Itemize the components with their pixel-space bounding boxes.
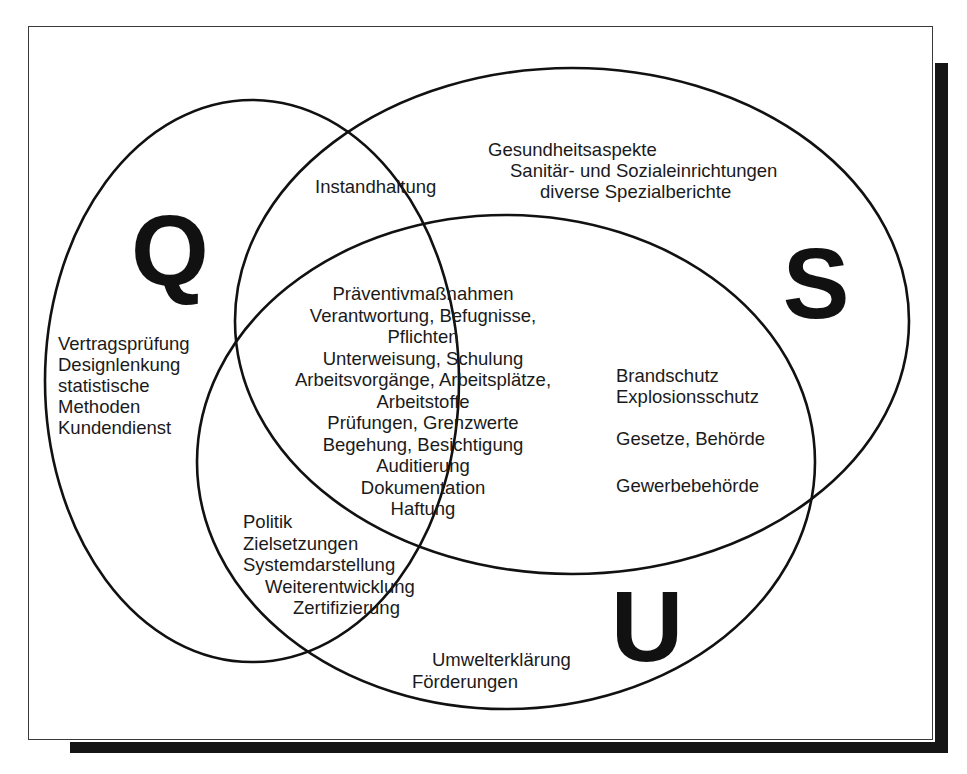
region-label-line: Umwelterklärung	[432, 649, 571, 670]
region-label-line: Verantwortung, Befugnisse,	[310, 305, 536, 326]
region-label-line: Auditierung	[376, 455, 470, 476]
region-label-line: Sanitär- und Sozialeinrichtungen	[510, 160, 777, 181]
region-label-line: Gesundheitsaspekte	[488, 139, 657, 160]
region-label-line: Designlenkung	[58, 354, 180, 375]
region-label-line: Brandschutz	[616, 365, 719, 386]
region-s-u-labels: BrandschutzExplosionsschutzGesetze, Behö…	[616, 365, 765, 496]
region-label-line: diverse Spezialberichte	[540, 181, 731, 202]
region-label-line: Prüfungen, Grenzwerte	[327, 412, 518, 433]
region-u-only-labels: UmwelterklärungFörderungen	[412, 649, 571, 692]
region-label-line: Gewerbebehörde	[616, 475, 759, 496]
region-q-s-labels: Instandhaltung	[315, 176, 436, 197]
diagram-stage: Q S U VertragsprüfungDesignlenkungstatis…	[0, 0, 967, 774]
region-label-line: Zertifizierung	[293, 597, 400, 618]
region-label-line: Dokumentation	[361, 477, 485, 498]
region-label-line: Arbeitsvorgänge, Arbeitsplätze,	[295, 369, 551, 390]
region-label-line: Arbeitstoffe	[376, 391, 469, 412]
region-q-u-labels: PolitikZielsetzungenSystemdarstellungWei…	[243, 511, 415, 618]
region-label-line: Weiterentwicklung	[265, 576, 415, 597]
region-label-line: Kundendienst	[58, 417, 171, 438]
region-label-line: Politik	[243, 511, 293, 532]
region-s-only-labels: GesundheitsaspekteSanitär- und Sozialein…	[488, 139, 777, 202]
region-label-line: Pflichten	[388, 326, 459, 347]
set-u-letter: U	[611, 570, 683, 682]
venn-diagram: Q S U VertragsprüfungDesignlenkungstatis…	[0, 0, 967, 774]
region-label-line: Vertragsprüfung	[58, 333, 190, 354]
region-label-line: Instandhaltung	[315, 176, 436, 197]
region-q-only-labels: VertragsprüfungDesignlenkungstatistische…	[58, 333, 190, 438]
region-label-line: Präventivmaßnahmen	[333, 283, 514, 304]
region-label-line: Gesetze, Behörde	[616, 428, 765, 449]
region-label-line: Haftung	[391, 498, 456, 519]
region-label-line: Unterweisung, Schulung	[323, 348, 524, 369]
set-q-letter: Q	[131, 194, 209, 306]
region-label-line: Explosionsschutz	[616, 386, 759, 407]
region-label-line: Begehung, Besichtigung	[323, 434, 524, 455]
region-label-line: Förderungen	[412, 671, 518, 692]
region-label-line: Zielsetzungen	[243, 533, 358, 554]
region-label-line: statistische	[58, 375, 150, 396]
region-label-line: Methoden	[58, 396, 140, 417]
region-label-line: Systemdarstellung	[243, 554, 395, 575]
set-s-letter: S	[783, 227, 850, 339]
region-q-s-u-labels: PräventivmaßnahmenVerantwortung, Befugni…	[295, 283, 551, 519]
